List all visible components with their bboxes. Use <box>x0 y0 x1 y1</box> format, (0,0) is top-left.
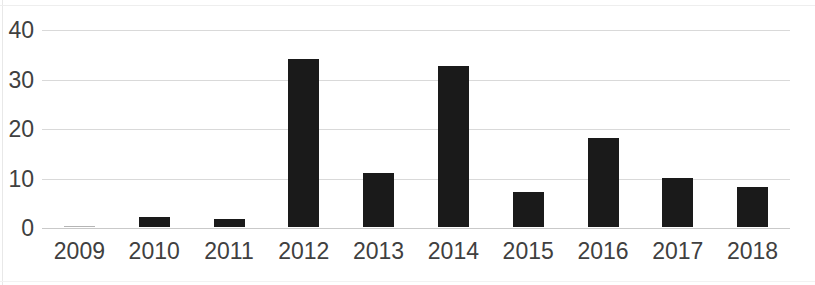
x-axis-tick-label-2016: 2016 <box>566 240 641 263</box>
x-axis-tick-label-2010: 2010 <box>117 240 192 263</box>
y-axis-tick-label: 0 <box>0 217 34 240</box>
x-axis-tick-label-2009: 2009 <box>42 240 117 263</box>
x-axis-tick-label-2012: 2012 <box>266 240 341 263</box>
y-axis-tick-label: 40 <box>0 19 34 42</box>
bar-2009 <box>64 226 95 228</box>
y-axis-tick-label: 30 <box>0 69 34 92</box>
bar-2010 <box>139 217 170 227</box>
bar-2012 <box>288 59 319 227</box>
bar-2011 <box>214 219 245 227</box>
bar-2016 <box>588 138 619 227</box>
bar-2013 <box>363 173 394 227</box>
bar-2017 <box>662 178 693 228</box>
bar-2014 <box>438 66 469 227</box>
bar-2018 <box>737 187 768 227</box>
x-axis-tick-label-2013: 2013 <box>341 240 416 263</box>
x-axis-tick-label-2011: 2011 <box>192 240 267 263</box>
x-axis-tick-label-2018: 2018 <box>715 240 790 263</box>
x-axis-tick-label-2017: 2017 <box>640 240 715 263</box>
bars-layer <box>42 30 790 228</box>
x-axis-tick-label-2015: 2015 <box>491 240 566 263</box>
x-axis-tick-label-2014: 2014 <box>416 240 491 263</box>
y-axis-tick-label: 10 <box>0 168 34 191</box>
x-axis: 2009201020112012201320142015201620172018 <box>42 240 790 274</box>
bar-2015 <box>513 192 544 227</box>
y-axis-tick-label: 20 <box>0 118 34 141</box>
bar-chart: 010203040 200920102011201220132014201520… <box>0 0 815 285</box>
